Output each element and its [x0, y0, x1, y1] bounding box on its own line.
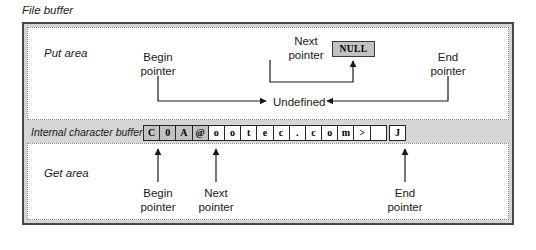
put-next-pointer-label-line2: pointer: [288, 48, 323, 62]
character-cell: [370, 125, 387, 141]
character-cell: o: [208, 125, 225, 141]
put-next-pointer-label-line1: Next: [288, 34, 323, 48]
character-cell: o: [224, 125, 241, 141]
get-area: [27, 143, 509, 220]
get-begin-pointer-label-line1: Begin: [140, 186, 175, 200]
get-end-pointer-label-line2: pointer: [387, 200, 422, 214]
character-cell: C: [143, 125, 160, 141]
get-next-pointer-label: Next pointer: [198, 186, 233, 214]
character-cell: t: [240, 125, 257, 141]
character-cell: @: [192, 125, 209, 141]
character-cell: c: [273, 125, 290, 141]
diagram-title: File buffer: [22, 4, 73, 16]
put-begin-pointer-label-line1: Begin: [140, 50, 175, 64]
put-end-pointer-label-line1: End: [430, 50, 465, 64]
get-begin-pointer-label: Begin pointer: [140, 186, 175, 214]
get-begin-pointer-label-line2: pointer: [140, 200, 175, 214]
put-end-pointer-label: End pointer: [430, 50, 465, 78]
put-begin-pointer-label: Begin pointer: [140, 50, 175, 78]
undefined-label: Undefined: [273, 96, 325, 108]
character-cell-row: C0A@ootec.com>J: [143, 125, 406, 141]
get-area-label: Get area: [44, 167, 89, 179]
character-cell: c: [305, 125, 322, 141]
character-cell: m: [337, 125, 354, 141]
put-area-label: Put area: [44, 47, 87, 59]
character-cell: J: [389, 125, 406, 141]
put-next-pointer-label: Next pointer: [288, 34, 323, 62]
put-end-pointer-label-line2: pointer: [430, 64, 465, 78]
character-cell: o: [321, 125, 338, 141]
get-next-pointer-label-line1: Next: [198, 186, 233, 200]
internal-character-buffer-label: Internal character buffer: [31, 126, 142, 138]
get-next-pointer-label-line2: pointer: [198, 200, 233, 214]
file-buffer-diagram: File buffer Put area Get area Internal c…: [0, 0, 536, 250]
character-cell: >: [353, 125, 370, 141]
put-begin-pointer-label-line2: pointer: [140, 64, 175, 78]
character-cell: A: [175, 125, 192, 141]
get-end-pointer-label-line1: End: [387, 186, 422, 200]
get-end-pointer-label: End pointer: [387, 186, 422, 214]
character-cell: e: [256, 125, 273, 141]
null-chip: NULL: [332, 41, 375, 57]
character-cell: 0: [159, 125, 176, 141]
character-cell: .: [289, 125, 306, 141]
